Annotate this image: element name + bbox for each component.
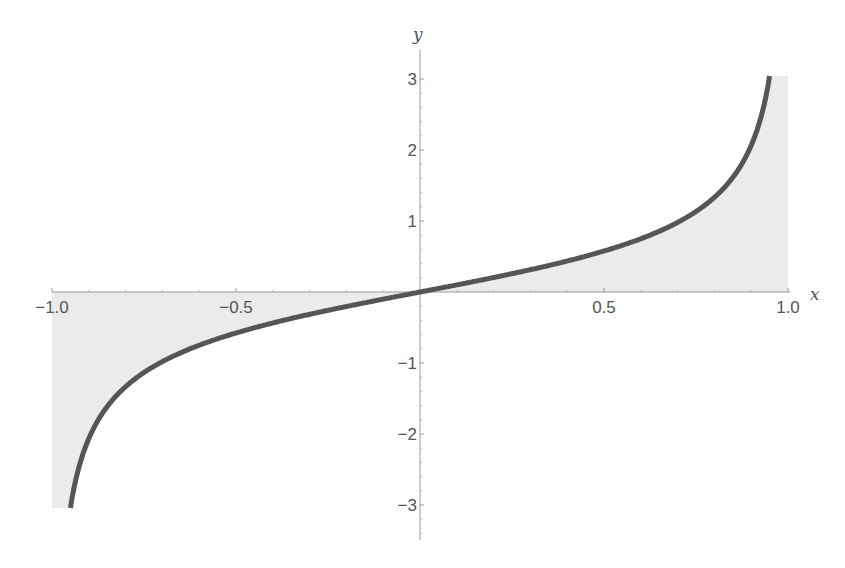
x-tick-label: −0.5	[219, 298, 253, 317]
y-tick-label: −3	[398, 496, 417, 515]
x-tick-label: 1.0	[776, 298, 800, 317]
y-tick-label: 2	[408, 141, 417, 160]
y-tick-label: −1	[398, 354, 417, 373]
y-tick-label: 1	[408, 212, 417, 231]
y-axis-label: y	[412, 24, 423, 44]
y-tick-label: −2	[398, 425, 417, 444]
x-tick-label: −1.0	[35, 298, 69, 317]
x-tick-label: 0.5	[592, 298, 616, 317]
function-plot: −1.0−0.50.51.0 321−1−2−3 x y	[0, 0, 845, 568]
y-tick-label: 3	[408, 70, 417, 89]
x-axis-label: x	[810, 284, 820, 304]
